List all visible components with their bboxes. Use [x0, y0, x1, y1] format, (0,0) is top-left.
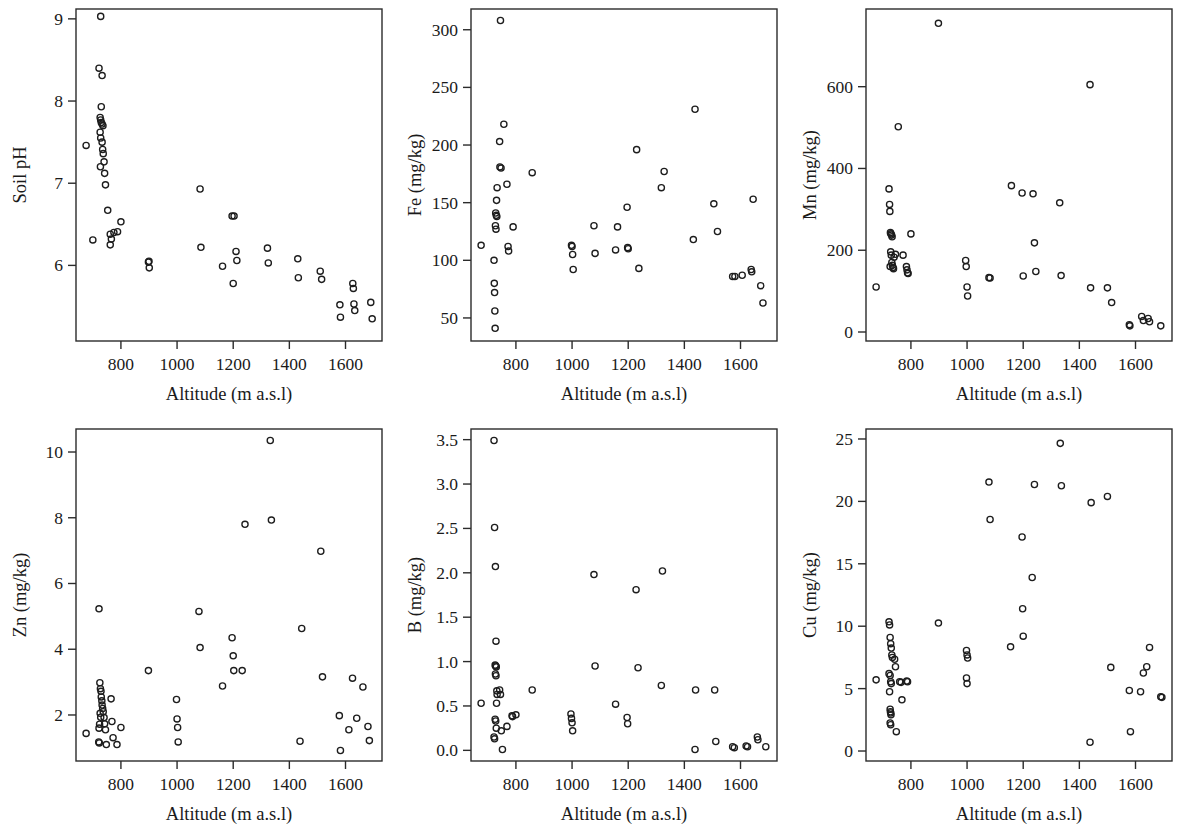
data-point — [501, 121, 507, 127]
data-point — [1019, 190, 1025, 196]
data-point — [352, 307, 358, 313]
y-tick-label: 200 — [432, 135, 459, 155]
data-point — [692, 687, 698, 693]
data-point — [336, 713, 342, 719]
data-point — [96, 725, 102, 731]
data-point — [1058, 272, 1064, 278]
x-tick-label: 800 — [503, 774, 530, 794]
y-tick-label: 0.0 — [436, 740, 458, 760]
y-axis-title: Cu (mg/kg) — [800, 552, 821, 638]
data-point — [297, 738, 303, 744]
data-point — [1057, 200, 1063, 206]
data-point — [96, 606, 102, 612]
panel-plot-area: 2468108001000120014001600Altitude (m a.s… — [10, 429, 382, 825]
y-axis-title: B (mg/kg) — [405, 557, 426, 634]
data-point — [360, 684, 366, 690]
data-point — [493, 197, 499, 203]
data-point — [295, 256, 301, 262]
y-tick-label: 6 — [54, 255, 63, 275]
y-tick-label: 1.0 — [436, 652, 458, 672]
plot-frame — [471, 9, 777, 341]
data-point — [1108, 664, 1114, 670]
y-tick-label: 300 — [432, 20, 459, 40]
panel-mn-svg: 02004006008001000120014001600Altitude (m… — [790, 0, 1184, 420]
data-point — [229, 635, 235, 641]
data-point — [354, 715, 360, 721]
y-tick-label: 100 — [432, 250, 459, 270]
panel-cu: 05101520258001000120014001600Altitude (m… — [790, 420, 1184, 840]
data-point — [299, 625, 305, 631]
data-point — [494, 185, 500, 191]
panel-plot-area: 501001502002503008001000120014001600Alti… — [405, 9, 777, 405]
data-point — [633, 587, 639, 593]
data-point — [1007, 644, 1013, 650]
x-axis-title: Altitude (m a.s.l) — [166, 804, 292, 825]
data-point — [614, 224, 620, 230]
data-point — [763, 744, 769, 750]
data-point — [83, 730, 89, 736]
data-point — [492, 325, 498, 331]
data-point — [197, 186, 203, 192]
data-point — [659, 568, 665, 574]
x-tick-label: 1200 — [216, 774, 251, 794]
data-point — [760, 300, 766, 306]
data-point — [570, 251, 576, 257]
data-point — [498, 728, 504, 734]
data-point — [690, 236, 696, 242]
panel-soil-ph-svg: 67898001000120014001600Altitude (m a.s.l… — [0, 0, 394, 420]
data-point — [478, 242, 484, 248]
data-point — [100, 151, 106, 157]
data-point — [658, 682, 664, 688]
data-point — [497, 17, 503, 23]
panel-mn: 02004006008001000120014001600Altitude (m… — [790, 0, 1184, 420]
y-tick-label: 4 — [54, 639, 63, 659]
x-tick-label: 800 — [503, 354, 530, 374]
data-point — [886, 201, 892, 207]
panel-fe: 501001502002503008001000120014001600Alti… — [395, 0, 789, 420]
panel-plot-area: 67898001000120014001600Altitude (m a.s.l… — [10, 9, 382, 405]
y-tick-label: 15 — [836, 554, 854, 574]
x-tick-label: 1000 — [950, 354, 985, 374]
y-tick-label: 10 — [836, 616, 854, 636]
x-axis-title: Altitude (m a.s.l) — [561, 384, 687, 405]
x-tick-label: 1200 — [611, 774, 646, 794]
data-point — [90, 237, 96, 243]
y-tick-label: 8 — [54, 508, 63, 528]
data-point — [349, 675, 355, 681]
y-tick-label: 400 — [827, 158, 854, 178]
data-point — [366, 738, 372, 744]
plot-frame — [866, 429, 1172, 761]
x-tick-label: 1400 — [1062, 354, 1097, 374]
panel-zn: 2468108001000120014001600Altitude (m a.s… — [0, 420, 394, 840]
x-tick-label: 800 — [108, 354, 135, 374]
data-point — [612, 701, 618, 707]
data-point — [987, 516, 993, 522]
y-axis-title: Soil pH — [10, 146, 30, 203]
data-point — [504, 181, 510, 187]
data-point — [1127, 729, 1133, 735]
data-point — [198, 244, 204, 250]
data-point — [491, 437, 497, 443]
data-point — [886, 671, 892, 677]
panel-zn-svg: 2468108001000120014001600Altitude (m a.s… — [0, 420, 394, 840]
data-point — [661, 168, 667, 174]
data-point — [1126, 687, 1132, 693]
data-point — [295, 275, 301, 281]
data-point — [692, 106, 698, 112]
y-axis-title: Mn (mg/kg) — [800, 130, 821, 220]
data-point — [714, 228, 720, 234]
data-point — [103, 741, 109, 747]
data-point — [318, 548, 324, 554]
data-point — [351, 301, 357, 307]
data-point — [1030, 191, 1036, 197]
data-point — [102, 170, 108, 176]
data-point — [935, 620, 941, 626]
x-tick-label: 1000 — [160, 774, 195, 794]
plot-frame — [76, 429, 382, 761]
y-tick-label: 10 — [46, 442, 64, 462]
data-point — [491, 289, 497, 295]
data-point — [1033, 268, 1039, 274]
data-point — [964, 284, 970, 290]
plot-frame — [866, 9, 1172, 341]
data-point — [242, 521, 248, 527]
